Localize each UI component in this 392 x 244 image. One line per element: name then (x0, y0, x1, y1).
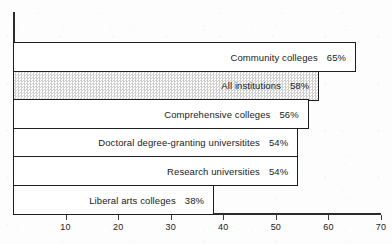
bar-chart: Community colleges65%All institutions58%… (0, 0, 392, 244)
x-tick-label-50: 50 (261, 222, 291, 232)
x-tick-mark-20 (118, 215, 119, 220)
x-tick-label-10: 10 (51, 222, 81, 232)
bar-category-label: Research universities (167, 166, 260, 177)
bar-3: Doctoral degree-granting universitites54… (13, 128, 298, 158)
bar-value-label: 58% (290, 80, 309, 91)
bar-2: Comprehensive colleges56% (13, 99, 309, 129)
bar-label-group: All institutions58% (221, 80, 318, 91)
x-tick-mark-70 (381, 215, 382, 220)
bar-value-label: 65% (327, 52, 346, 63)
x-tick-mark-60 (328, 215, 329, 220)
bar-0: Community colleges65% (13, 42, 356, 72)
x-tick-mark-10 (66, 215, 67, 220)
bar-value-label: 56% (279, 109, 298, 120)
bar-value-label: 54% (269, 137, 288, 148)
x-tick-label-30: 30 (156, 222, 186, 232)
bar-value-label: 54% (269, 166, 288, 177)
bar-category-label: Liberal arts colleges (89, 195, 176, 206)
bar-label-group: Research universities54% (167, 166, 297, 177)
bar-value-label: 38% (185, 195, 204, 206)
bar-1: All institutions58% (13, 71, 319, 101)
x-tick-label-20: 20 (103, 222, 133, 232)
x-tick-mark-50 (276, 215, 277, 220)
x-tick-label-60: 60 (313, 222, 343, 232)
bar-label-group: Liberal arts colleges38% (89, 195, 213, 206)
bar-category-label: Community colleges (230, 52, 317, 63)
bar-label-group: Community colleges65% (230, 52, 355, 63)
bar-5: Liberal arts colleges38% (13, 185, 214, 215)
x-tick-label-40: 40 (208, 222, 238, 232)
bar-label-group: Comprehensive colleges56% (164, 109, 308, 120)
bar-category-label: Comprehensive colleges (164, 109, 270, 120)
bar-category-label: Doctoral degree-granting universitites (98, 137, 260, 148)
bar-4: Research universities54% (13, 156, 298, 186)
x-tick-mark-40 (223, 215, 224, 220)
bar-category-label: All institutions (221, 80, 281, 91)
x-tick-label-70: 70 (366, 222, 392, 232)
x-tick-mark-30 (171, 215, 172, 220)
bar-label-group: Doctoral degree-granting universitites54… (98, 137, 297, 148)
